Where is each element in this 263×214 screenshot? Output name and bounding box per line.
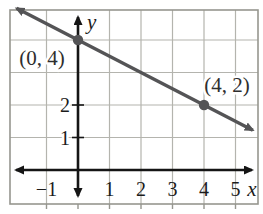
x-tick-label: 4 — [199, 178, 209, 200]
x-tick-label: 5 — [231, 178, 241, 200]
data-point — [199, 100, 209, 110]
data-point — [73, 35, 83, 45]
x-tick-label: 2 — [136, 178, 146, 200]
point-label: (4, 2) — [204, 73, 250, 97]
x-axis-label: x — [246, 177, 257, 201]
y-tick-label: 1 — [60, 127, 70, 149]
x-tick-label: 3 — [168, 178, 178, 200]
line-graph: −11234512 xy (0, 4)(4, 2) — [0, 0, 263, 214]
y-axis-label: y — [85, 10, 97, 34]
axes — [16, 17, 252, 196]
y-tick-label: 2 — [60, 94, 70, 116]
grid-frame — [10, 10, 258, 204]
graph-figure: −11234512 xy (0, 4)(4, 2) — [0, 0, 263, 214]
point-label: (0, 4) — [19, 46, 65, 70]
grid-lines — [10, 10, 258, 204]
x-tick-label: 1 — [105, 178, 115, 200]
point-labels: (0, 4)(4, 2) — [19, 46, 250, 97]
x-tick-label: −1 — [36, 178, 57, 200]
